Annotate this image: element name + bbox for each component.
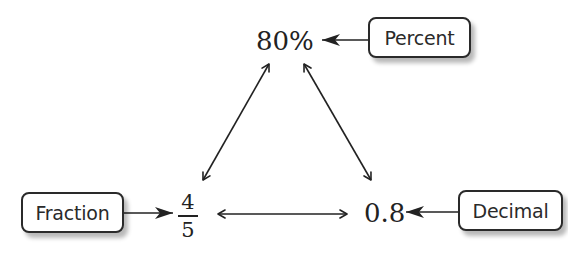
decimal-value: 0.8 (364, 200, 405, 226)
decimal-label-box: Decimal (458, 190, 563, 231)
fraction-bar (178, 215, 198, 217)
percent-label-box: Percent (368, 17, 471, 58)
arrow-percent-fraction (203, 64, 269, 180)
percent-label: Percent (384, 27, 454, 49)
fraction-denominator: 5 (181, 220, 194, 241)
arrow-percent-decimal (304, 64, 371, 180)
fraction-label: Fraction (35, 202, 109, 224)
fraction-label-box: Fraction (21, 192, 124, 233)
equivalence-diagram: 80% 4 5 0.8 Percent Fraction Decimal (0, 0, 568, 269)
fraction-value: 4 5 (178, 192, 198, 241)
percent-value: 80% (256, 28, 314, 54)
decimal-label: Decimal (472, 200, 548, 222)
fraction-numerator: 4 (181, 192, 194, 213)
